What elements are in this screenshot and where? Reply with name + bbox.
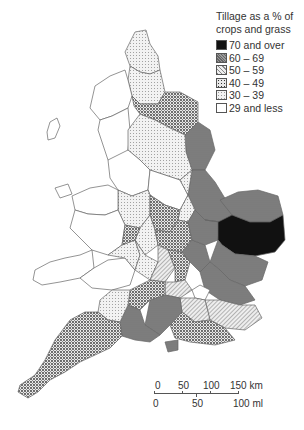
scale-tick bbox=[210, 391, 211, 394]
scale-tick bbox=[238, 391, 239, 394]
scale-tick bbox=[154, 391, 155, 394]
scale-mi-0: 0 bbox=[153, 398, 159, 409]
legend: Tillage as a % of crops and grass 70 and… bbox=[216, 10, 304, 114]
legend-item-60-69: 60 – 69 bbox=[216, 52, 304, 65]
region-mid-wales bbox=[70, 210, 125, 255]
scale-km-50: 50 bbox=[178, 380, 189, 391]
scale-km-0: 0 bbox=[155, 380, 161, 391]
region-devon-cornwall bbox=[18, 312, 122, 398]
scale-bar: 0 50 100 150 km 0 50 100 ml bbox=[150, 380, 304, 430]
region-isle-of-man bbox=[47, 118, 60, 140]
scale-tick bbox=[196, 394, 197, 397]
scale-mi-100: 100 ml bbox=[233, 398, 263, 409]
swatch-solid-black bbox=[216, 40, 227, 50]
scale-mi-50: 50 bbox=[192, 398, 203, 409]
scale-tick bbox=[182, 391, 183, 394]
scale-km-100: 100 bbox=[203, 380, 220, 391]
legend-item-29-less: 29 and less bbox=[216, 102, 304, 115]
swatch-dense-dark-dots bbox=[216, 53, 227, 63]
swatch-diagonal-hatch bbox=[216, 65, 227, 75]
legend-item-50-59: 50 – 59 bbox=[216, 64, 304, 77]
region-anglesey bbox=[55, 184, 72, 198]
swatch-checker-dots bbox=[216, 78, 227, 88]
region-berks bbox=[165, 280, 192, 298]
legend-item-70-over: 70 and over bbox=[216, 39, 304, 52]
legend-item-30-39: 30 – 39 bbox=[216, 89, 304, 102]
legend-title: Tillage as a % of crops and grass bbox=[216, 10, 304, 36]
region-isle-of-wight bbox=[165, 340, 178, 352]
swatch-light-dots bbox=[216, 90, 227, 100]
legend-item-40-49: 40 – 49 bbox=[216, 77, 304, 90]
scale-km-150: 150 km bbox=[230, 380, 263, 391]
swatch-blank bbox=[216, 103, 227, 113]
region-north-wales bbox=[72, 185, 118, 215]
